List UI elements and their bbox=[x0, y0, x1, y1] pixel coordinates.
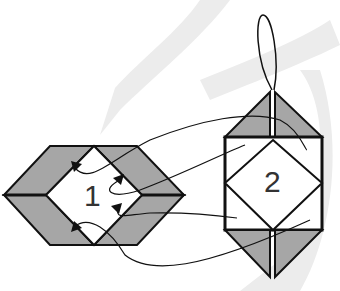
diagram-canvas bbox=[0, 0, 340, 291]
step-2-label: 2 bbox=[264, 167, 281, 197]
origami-diagram: 1 2 bbox=[0, 0, 340, 291]
step-1-label: 1 bbox=[84, 181, 101, 211]
